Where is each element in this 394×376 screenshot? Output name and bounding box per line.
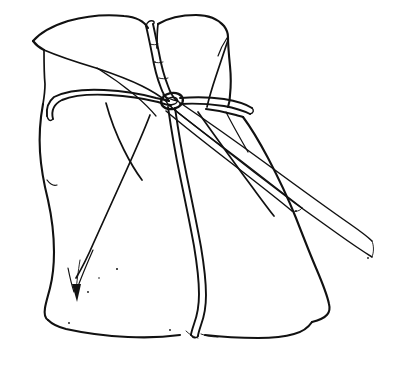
stray-dot-1 (116, 268, 118, 270)
stray-dot-2 (87, 291, 89, 293)
stray-dot-8 (295, 210, 297, 212)
stray-dot-4 (68, 322, 70, 324)
stray-dot-5 (169, 329, 171, 331)
stray-dot-6 (154, 61, 156, 63)
stray-dot-3 (98, 277, 100, 279)
line-drawing-svg: Tied cloth bundle line drawing Black ink… (0, 0, 394, 376)
illustration-canvas: Tied cloth bundle line drawing Black ink… (0, 0, 394, 376)
stray-dot-7 (367, 257, 369, 259)
